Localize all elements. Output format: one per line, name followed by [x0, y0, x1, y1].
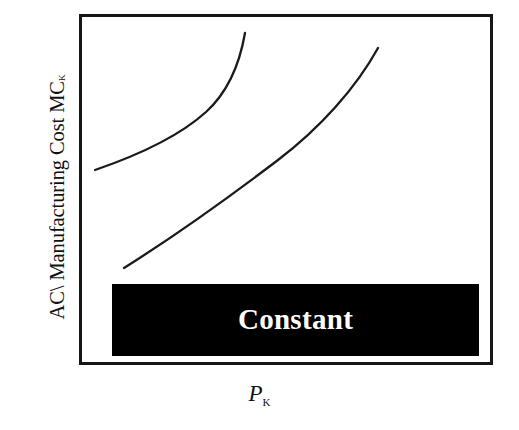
y-axis-label: AC\ Manufacturing Cost MCK	[40, 32, 74, 362]
constant-band: Constant	[112, 284, 479, 356]
figure-container: AC\ Manufacturing Cost MCK Constant PK	[0, 0, 519, 430]
x-axis-label-subscript: K	[263, 393, 271, 409]
y-axis-label-text: AC\ Manufacturing Cost MC	[46, 81, 69, 319]
x-axis-label-text: P	[248, 381, 262, 406]
constant-band-label: Constant	[238, 305, 353, 334]
y-axis-label-subscript: K	[53, 75, 69, 82]
x-axis-label: PK	[0, 381, 519, 407]
